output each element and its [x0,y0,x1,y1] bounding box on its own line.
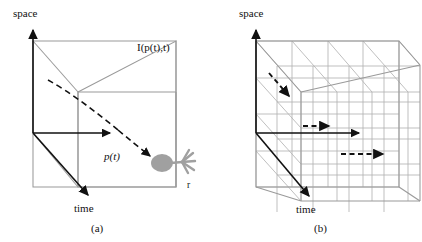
intensity-label-a: I(p(t),t) [137,41,170,54]
receptor-label-a: r [187,180,191,190]
panel-a: space time I(p(t),t) p(t) r (a) [0,0,211,242]
space-axis-label-b: space [239,7,264,19]
photoreceptor-icon [151,150,195,173]
time-axis-label-b: time [296,203,316,215]
trajectory-dashed-curve-a [48,80,118,130]
cube-wireframe-b [256,41,420,201]
trajectory-dashed-arrow-a [118,130,150,156]
grid-lattice-b [256,41,420,212]
path-label-a: p(t) [103,150,120,163]
time-axis-arrow-a [33,133,88,195]
figure-spacetime-cubes: space time I(p(t),t) p(t) r (a) [0,0,422,242]
space-axis-label-a: space [13,7,38,19]
axes-a [33,30,88,195]
time-axis-label-a: time [74,202,94,214]
panel-caption-a: (a) [91,222,104,235]
panel-b: space time (b) [211,0,422,242]
dashed-arrow-upper-b [269,73,289,96]
panel-caption-b: (b) [314,222,327,235]
